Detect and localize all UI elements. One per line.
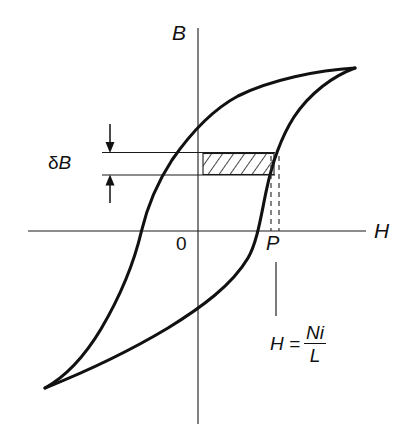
- formula-left-side: H =: [270, 334, 300, 353]
- delta-glyph: δ: [48, 152, 59, 173]
- origin-label: 0: [176, 234, 187, 253]
- formula-numerator: Ni: [304, 323, 326, 343]
- field-formula: H = Ni L: [270, 322, 326, 364]
- hysteresis-diagram-svg: [0, 0, 414, 439]
- operating-point-label: P: [266, 233, 279, 253]
- flux-band-label: δB: [48, 153, 71, 172]
- hysteresis-figure: B H 0 P δB H = Ni L: [0, 0, 414, 439]
- flux-band-b-glyph: B: [59, 152, 72, 173]
- formula-denominator: L: [304, 343, 326, 365]
- b-axis-label: B: [172, 22, 186, 43]
- formula-fraction: Ni L: [304, 323, 326, 365]
- h-axis-label: H: [374, 220, 389, 241]
- delta-b-dimension-arrows: [106, 124, 115, 203]
- flux-band-hatched-region: [203, 154, 274, 175]
